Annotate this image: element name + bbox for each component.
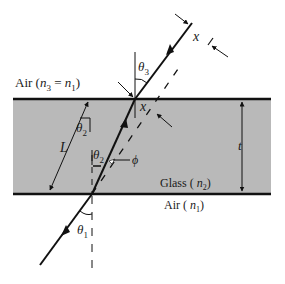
equals-sign: = [51, 75, 65, 90]
x-inside-label: x [140, 100, 146, 114]
x-inside-arrow-left [118, 82, 133, 97]
glass-label: Glass ( n2) [160, 177, 211, 192]
glass-prefix: Glass ( [160, 176, 197, 190]
theta3-subscript: 3 [144, 67, 149, 77]
theta1-subscript: 1 [83, 230, 88, 240]
top-air-label: Air (n3 = n1) [15, 76, 80, 93]
theta3-label: θ3 [138, 60, 149, 77]
bottom-air-suffix: ) [200, 198, 204, 212]
length-L-label: L [60, 141, 68, 155]
phi-label: ϕ [132, 154, 138, 166]
diagram-drawing [0, 0, 285, 284]
top-air-prefix: Air ( [15, 75, 40, 90]
glass-slab-diagram: Air (n3 = n1) Glass ( n2) Air ( n1) θ1 θ… [0, 0, 285, 284]
x-outside-label: x [193, 30, 199, 44]
x-outside-tick [208, 38, 213, 45]
theta2-upper-subscript: 2 [82, 128, 87, 138]
glass-suffix: ) [207, 176, 211, 190]
bottom-air-label: Air ( n1) [164, 199, 204, 214]
bottom-air-prefix: Air ( [164, 198, 190, 212]
theta1-arc [80, 211, 92, 215]
theta2-lower-subscript: 2 [99, 155, 104, 165]
theta3-arc [135, 79, 147, 83]
theta2-upper-label: θ2 [76, 121, 87, 138]
top-air-suffix: ) [76, 75, 80, 90]
x-outside-arrow-right [212, 46, 228, 57]
x-outside-arrow-left [175, 14, 188, 24]
theta1-label: θ1 [77, 223, 88, 240]
thickness-t-label: t [238, 139, 242, 152]
theta2-lower-label: θ2 [93, 148, 104, 165]
